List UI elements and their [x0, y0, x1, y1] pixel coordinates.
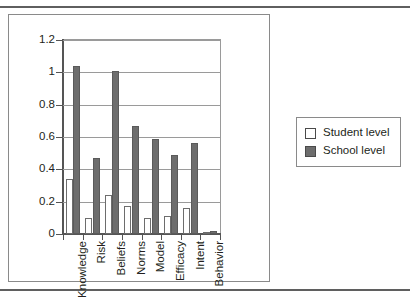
legend-label: Student level [323, 127, 390, 139]
figure: 1.210.80.60.40.20 KnowledgeRiskBeliefsNo… [0, 0, 410, 298]
legend-item: Student level [305, 124, 390, 142]
legend-label: School level [323, 145, 385, 157]
x-axis-category-label: Intent [195, 241, 207, 270]
x-axis-tick [161, 235, 162, 240]
bar-school-level [210, 231, 217, 234]
bar-student-level [164, 216, 171, 234]
bottom-divider-rule [0, 289, 410, 291]
x-axis-category-label: Model [155, 241, 167, 272]
bar-student-level [124, 206, 131, 234]
x-axis-category-label: Efficacy [175, 241, 187, 281]
bar-student-level [144, 218, 151, 234]
chart-legend: Student levelSchool level [296, 117, 401, 167]
bar-school-level [152, 139, 159, 234]
gridline [63, 40, 220, 41]
legend-swatch-school [305, 146, 316, 157]
gridline [63, 72, 220, 73]
y-axis-tick-label: 0.4 [13, 163, 55, 175]
gridline [63, 105, 220, 106]
y-axis-tick-label: 0 [13, 228, 55, 240]
y-axis-tick [56, 40, 62, 41]
y-axis-labels: 1.210.80.60.40.20 [9, 15, 55, 283]
x-axis-category-label: Norms [136, 241, 148, 275]
gridline [63, 137, 220, 138]
x-axis-tick [63, 235, 64, 240]
y-axis-tick [56, 202, 62, 203]
top-divider-rule [0, 6, 410, 8]
x-axis-category-label: Behavior [214, 241, 226, 286]
y-axis-tick [56, 234, 62, 235]
bar-school-level [171, 155, 178, 234]
bar-student-level [85, 218, 92, 234]
plot-area [63, 40, 220, 234]
x-axis-tick [122, 235, 123, 240]
bar-student-level [66, 179, 73, 234]
x-axis-tick [220, 235, 221, 240]
x-axis-category-label: Beliefs [116, 241, 128, 276]
y-axis-tick [56, 105, 62, 106]
y-axis-tick-label: 0.2 [13, 196, 55, 208]
bar-school-level [73, 66, 80, 234]
x-axis-tick [181, 235, 182, 240]
y-axis-tick-label: 0.6 [13, 131, 55, 143]
y-axis-tick [56, 72, 62, 73]
bar-school-level [132, 126, 139, 234]
legend-item: School level [305, 142, 390, 160]
y-axis-tick [56, 137, 62, 138]
y-axis-tick [56, 169, 62, 170]
x-axis-category-label: Risk [96, 241, 108, 263]
x-axis-tick [200, 235, 201, 240]
legend-swatch-student [305, 128, 316, 139]
x-axis-tick [83, 235, 84, 240]
y-axis-tick-label: 0.8 [13, 99, 55, 111]
bar-school-level [112, 71, 119, 234]
bar-student-level [203, 232, 210, 234]
y-axis-tick-label: 1.2 [13, 34, 55, 46]
bar-school-level [191, 143, 198, 234]
x-axis-tick [142, 235, 143, 240]
y-axis-tick-label: 1 [13, 66, 55, 78]
bar-school-level [93, 158, 100, 234]
bar-student-level [105, 195, 112, 234]
bar-student-level [183, 208, 190, 234]
plot-right-border [220, 39, 221, 235]
x-axis-tick [102, 235, 103, 240]
x-axis-category-label: Knowledge [77, 241, 89, 298]
chart-container: 1.210.80.60.40.20 KnowledgeRiskBeliefsNo… [8, 14, 270, 282]
